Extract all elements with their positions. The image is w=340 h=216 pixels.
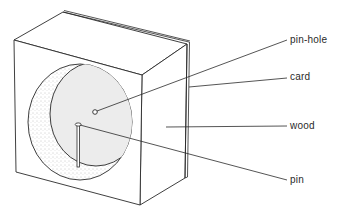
label-pin-hole: pin-hole: [290, 34, 327, 46]
label-wood: wood: [290, 120, 315, 132]
leader-card: [189, 78, 287, 87]
label-card: card: [290, 71, 310, 83]
pinhole-camera-diagram: [0, 0, 340, 216]
label-pin: pin: [290, 174, 304, 186]
pin-hole-icon: [93, 110, 98, 115]
